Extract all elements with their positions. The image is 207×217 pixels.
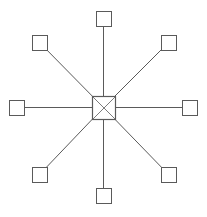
hub-layer: [93, 97, 116, 120]
node-right: [183, 101, 198, 116]
node-bottom-right: [162, 168, 177, 183]
node-top-left: [33, 36, 48, 51]
hub-node: [93, 97, 116, 120]
node-top: [97, 12, 112, 27]
node-left: [10, 101, 25, 116]
node-bottom-left: [33, 168, 48, 183]
star-diagram: [0, 0, 207, 217]
node-bottom: [97, 189, 112, 204]
star-diagram-canvas: [0, 0, 207, 217]
node-top-right: [162, 36, 177, 51]
